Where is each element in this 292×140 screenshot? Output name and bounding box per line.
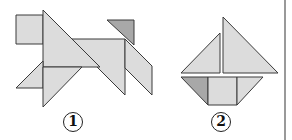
boat-hull-right-triangle <box>237 77 263 105</box>
figure-1-dog <box>16 10 152 107</box>
tangram-figures <box>0 0 292 140</box>
dog-tail-parallelogram <box>125 39 152 95</box>
dog-head-square <box>16 15 43 44</box>
figure-2-label: 2 <box>211 112 231 132</box>
boat-small-sail <box>181 33 220 73</box>
dog-front-leg-triangle <box>16 61 43 88</box>
boat-hull-dark-triangle <box>181 77 208 105</box>
figure-1-label: 1 <box>63 112 83 132</box>
figure-2-sailboat <box>181 17 278 105</box>
dog-lower-triangle <box>43 67 82 107</box>
boat-large-sail <box>223 17 278 73</box>
boat-hull-square <box>208 77 237 105</box>
